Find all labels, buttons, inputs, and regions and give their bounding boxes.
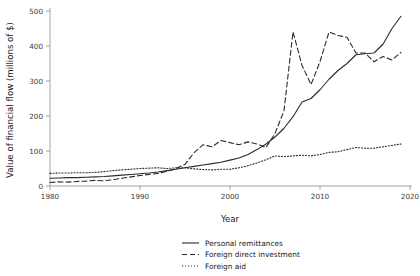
y-tick-label: 500 <box>29 7 43 16</box>
y-tick-label: 400 <box>29 42 43 51</box>
y-tick-label: 100 <box>29 147 43 156</box>
chart-figure: Value of financial flow (millions of $) … <box>0 0 420 276</box>
y-axis-title: Value of financial flow (millions of $) <box>5 22 15 178</box>
y-tick-label: 300 <box>29 77 43 86</box>
x-tick-label: 1980 <box>41 192 60 201</box>
y-tick-label: 200 <box>29 112 43 121</box>
x-tick-label: 2020 <box>401 192 420 201</box>
legend-label: Foreign aid <box>205 262 246 271</box>
chart-background <box>0 0 420 276</box>
x-tick-label: 2010 <box>311 192 330 201</box>
legend-label: Foreign direct investment <box>205 250 300 259</box>
legend-label: Personal remittances <box>205 239 283 248</box>
x-tick-label: 2000 <box>221 192 240 201</box>
x-axis-title: Year <box>220 214 240 224</box>
x-tick-label: 1990 <box>131 192 150 201</box>
y-tick-label: 0 <box>38 182 43 191</box>
line-chart: Value of financial flow (millions of $) … <box>0 0 420 276</box>
